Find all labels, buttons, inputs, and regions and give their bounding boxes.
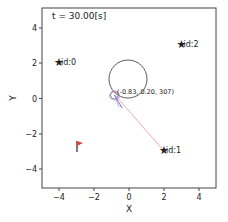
y-tick-label: −4 xyxy=(25,165,37,174)
x-tick-label: −2 xyxy=(88,193,100,202)
y-tick-label: 4 xyxy=(32,24,37,33)
x-tick-label: −4 xyxy=(53,193,65,202)
y-axis: 4 2 0 −2 −4 Y xyxy=(8,24,42,174)
x-axis: −4 −2 0 2 4 X xyxy=(53,188,201,214)
x-tick-label: 2 xyxy=(161,193,166,202)
y-axis-label: Y xyxy=(8,95,18,102)
y-tick-label: −2 xyxy=(25,130,37,139)
landmark-label: id:2 xyxy=(184,40,199,49)
y-tick-label: 0 xyxy=(32,95,37,104)
x-tick-label: 4 xyxy=(196,193,201,202)
x-axis-label: X xyxy=(126,204,132,214)
landmark-label: id:1 xyxy=(166,146,181,155)
robot-pose-label: (-0.83, 0.20, 307) xyxy=(117,88,174,96)
y-tick-label: 2 xyxy=(32,59,37,68)
landmark-label: id:0 xyxy=(61,58,76,67)
x-tick-label: 0 xyxy=(126,193,131,202)
chart: t = 30.00[s] −4 −2 0 2 4 X 4 2 0 −2 −4 Y xyxy=(0,0,228,222)
time-label: t = 30.00[s] xyxy=(52,11,106,21)
